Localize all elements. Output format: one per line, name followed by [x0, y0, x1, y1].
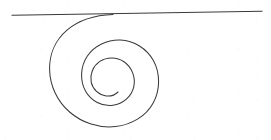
spiral-figure-svg [0, 0, 271, 140]
spiral-curve [50, 15, 159, 127]
tangent-line [12, 11, 262, 15]
figure-canvas [0, 0, 271, 140]
